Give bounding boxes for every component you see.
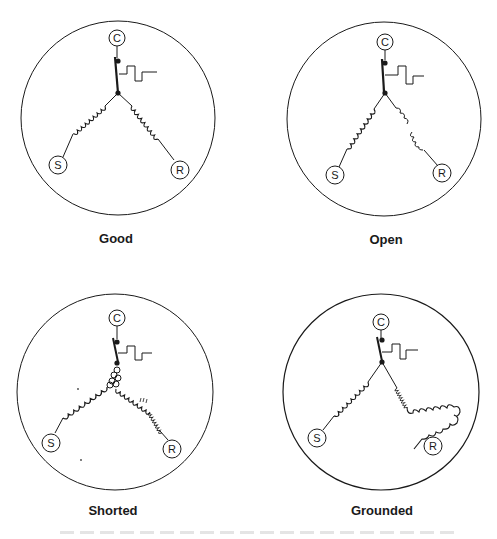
terminal-r: R [171,161,189,179]
shorted-coil-cluster [107,367,121,388]
panel-grounded: C S R [283,294,479,490]
start-winding [55,387,109,433]
terminal-s-label: S [313,432,320,444]
terminal-c: C [377,34,393,50]
terminal-r: R [424,437,442,455]
caption-shorted: Shorted [88,503,137,518]
terminal-c-label: C [113,312,121,324]
run-winding [118,93,174,160]
terminal-s: S [49,156,67,174]
compressor-shell [287,22,481,216]
run-winding [114,389,168,440]
terminal-s-label: S [54,159,61,171]
motor-winding-diagrams: C S R [0,0,497,539]
terminal-r: R [163,440,181,458]
overload-protector-icon [115,46,157,96]
terminal-c: C [373,314,389,330]
terminal-s: S [308,429,326,447]
run-winding-grounded [382,362,460,449]
overload-protector-icon [377,330,418,365]
panel-open: C S R [287,22,481,216]
terminal-c-label: C [377,316,385,328]
terminal-s: S [326,166,344,184]
overload-protector-icon [113,326,152,366]
caption-open: Open [369,232,402,247]
terminal-r: R [433,164,451,182]
terminal-c-label: C [113,32,121,44]
start-winding [63,93,118,157]
terminal-s: S [42,434,60,452]
overload-protector-icon [382,50,424,96]
terminal-r-label: R [438,167,446,179]
terminal-c-label: C [381,36,389,48]
compressor-shell [21,21,215,215]
start-winding [339,93,385,167]
terminal-c: C [109,310,125,326]
panel-shorted: C S [17,294,213,490]
terminal-s-label: S [47,437,54,449]
terminal-s-label: S [331,169,338,181]
terminal-r-label: R [168,443,176,455]
run-winding-open [385,93,438,166]
panel-good: C S R [21,21,215,215]
caption-good: Good [99,231,133,246]
faded-figure-caption [60,531,460,534]
start-winding [323,362,382,430]
caption-grounded: Grounded [351,503,413,518]
terminal-r-label: R [429,440,437,452]
terminal-r-label: R [176,164,184,176]
terminal-c: C [109,30,125,46]
